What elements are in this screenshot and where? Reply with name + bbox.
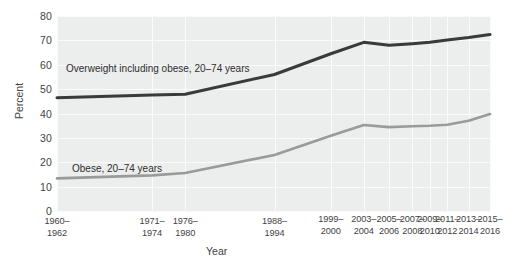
annotation-overweight-line1: Overweight including obese, <box>66 63 192 74</box>
y-axis-tick-labels: 80 70 60 50 40 30 20 10 0 <box>0 16 52 211</box>
y-tick-70: 70 <box>0 35 52 45</box>
x-tick-2-start: 1976– <box>164 216 206 228</box>
y-tick-50: 50 <box>0 84 52 94</box>
chart-container: Percent 80 70 60 50 40 30 20 10 0 Overwe… <box>0 0 515 263</box>
x-tick-11: 2015–2016 <box>469 214 511 237</box>
x-tick-11-end: 2016 <box>469 226 511 238</box>
x-axis-title: Year <box>206 245 227 257</box>
series-lines <box>57 16 490 211</box>
annotation-obese: Obese, 20–74 years <box>72 163 162 175</box>
y-tick-80: 80 <box>0 11 52 21</box>
x-axis-tick-labels: 1960–19621971–19741976–19801988–19941999… <box>0 214 515 248</box>
annotation-obese-line1: Obese, 20–74 years <box>72 163 162 174</box>
y-tick-30: 30 <box>0 133 52 143</box>
x-tick-0-end: 1962 <box>36 228 78 240</box>
y-tick-10: 10 <box>0 182 52 192</box>
y-tick-40: 40 <box>0 109 52 119</box>
x-tick-11-start: 2015– <box>469 214 511 226</box>
x-tick-0: 1960–1962 <box>36 216 78 239</box>
plot-area <box>57 16 490 211</box>
y-tick-60: 60 <box>0 60 52 70</box>
x-tick-2-end: 1980 <box>164 228 206 240</box>
y-tick-20: 20 <box>0 157 52 167</box>
annotation-overweight: Overweight including obese, 20–74 years <box>66 63 249 75</box>
x-tick-3-start: 1988– <box>254 216 296 228</box>
x-tick-2: 1976–1980 <box>164 216 206 239</box>
x-tick-0-start: 1960– <box>36 216 78 228</box>
gridline-horizontal-0 <box>57 211 490 212</box>
annotation-overweight-line2: 20–74 years <box>194 63 249 74</box>
x-tick-3-end: 1994 <box>254 228 296 240</box>
x-tick-3: 1988–1994 <box>254 216 296 239</box>
